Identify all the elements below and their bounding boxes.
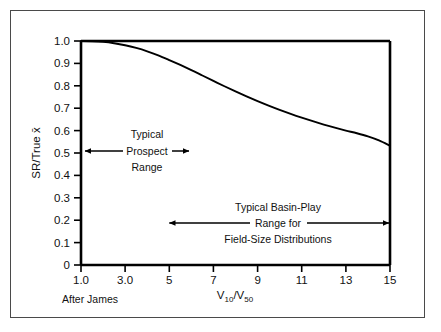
y-tick-label: 0.4	[54, 169, 71, 181]
y-tick-label: 0.1	[54, 237, 70, 249]
annotation-basin-play-range: Typical Basin-Play Range for Field-Size …	[169, 201, 389, 245]
data-curve-group	[81, 41, 390, 146]
y-tick-label: 0.9	[54, 57, 70, 69]
x-axis-title: V10/V50	[217, 289, 254, 304]
y-axis-title: SR/True x̄	[30, 127, 42, 179]
y-axis-tick-labels: 1.0 0.9 0.8 0.7 0.6 0.5 0.4 0.3 0.2 0.1 …	[54, 35, 71, 271]
y-tick-label: 1.0	[54, 35, 70, 47]
svg-text:V10/V50: V10/V50	[217, 289, 254, 304]
prospect-range-line-1: Typical	[131, 128, 164, 140]
figure-credit: After James	[62, 293, 118, 305]
y-tick-label: 0.8	[54, 80, 70, 92]
x-tick-label: 13	[340, 274, 353, 286]
x-tick-label: 15	[384, 274, 397, 286]
y-tick-label: 0.2	[54, 214, 70, 226]
x-axis-tick-labels: 1.0 3.0 5 7 9 11 13 15	[73, 274, 396, 286]
x-tick-label: 7	[210, 274, 216, 286]
prospect-range-line-3: Range	[132, 161, 163, 173]
chart-figure: 1.0 0.9 0.8 0.7 0.6 0.5 0.4 0.3 0.2 0.1 …	[0, 0, 441, 332]
chart-svg: 1.0 0.9 0.8 0.7 0.6 0.5 0.4 0.3 0.2 0.1 …	[0, 0, 441, 332]
y-tick-label: 0.5	[54, 147, 70, 159]
y-axis-title-text: SR/True x̄	[30, 127, 42, 179]
x-tick-label: 11	[296, 274, 308, 286]
svg-text:SR/True x̄: SR/True x̄	[30, 127, 42, 179]
x-tick-label: 9	[254, 274, 260, 286]
credit-text: After James	[62, 293, 118, 305]
basin-play-line-1: Typical Basin-Play	[235, 201, 322, 213]
sr-true-mean-curve	[81, 41, 390, 146]
y-tick-label: 0.3	[54, 192, 70, 204]
x-axis-title-sub2: 50	[244, 295, 253, 304]
basin-play-line-2: Range for	[255, 217, 302, 229]
basin-play-line-3: Field-Size Distributions	[224, 233, 331, 245]
y-tick-label: 0.7	[54, 102, 70, 114]
y-tick-label: 0	[64, 259, 70, 271]
x-tick-label: 1.0	[73, 274, 89, 286]
y-tick-label: 0.6	[54, 125, 70, 137]
prospect-range-line-2: Prospect	[126, 145, 168, 157]
annotation-prospect-range: Typical Prospect Range	[85, 128, 189, 173]
x-tick-label: 3.0	[117, 274, 133, 286]
x-tick-label: 5	[166, 274, 172, 286]
